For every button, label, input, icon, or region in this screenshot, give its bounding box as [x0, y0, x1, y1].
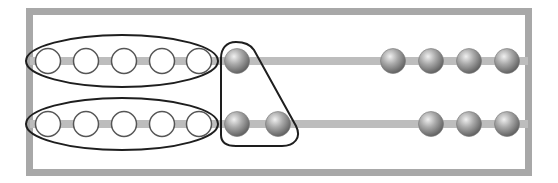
- gray-bead: [225, 49, 250, 74]
- white-bead: [150, 49, 175, 74]
- top-rod: [30, 57, 528, 65]
- gray-bead: [495, 49, 520, 74]
- white-bead: [112, 49, 137, 74]
- gray-bead: [457, 112, 482, 137]
- gray-bead: [381, 49, 406, 74]
- white-bead: [112, 112, 137, 137]
- gray-bead: [225, 112, 250, 137]
- white-bead: [36, 49, 61, 74]
- white-bead: [74, 49, 99, 74]
- gray-bead: [419, 112, 444, 137]
- white-bead: [74, 112, 99, 137]
- gray-bead: [266, 112, 291, 137]
- white-bead: [187, 49, 212, 74]
- white-bead: [150, 112, 175, 137]
- gray-bead: [457, 49, 482, 74]
- gray-bead: [495, 112, 520, 137]
- rekenrek-diagram: [0, 0, 558, 183]
- white-bead: [36, 112, 61, 137]
- white-bead: [187, 112, 212, 137]
- gray-bead: [419, 49, 444, 74]
